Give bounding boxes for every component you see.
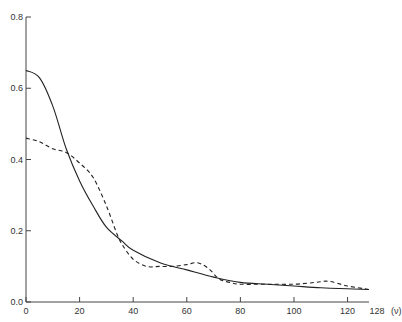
x-tick-label: 20 — [75, 306, 85, 316]
y-tick-label: 0.4 — [10, 155, 23, 165]
x-tick-label: 120 — [340, 306, 355, 316]
x-tick-label: 40 — [128, 306, 138, 316]
x-tick-label: 0 — [23, 306, 28, 316]
dashed-series-line — [26, 138, 369, 289]
line-chart: 0.00.20.40.60.8 020406080100120128(ν) — [0, 0, 402, 322]
x-tick-label: 100 — [286, 306, 301, 316]
x-tick-label: 128 — [369, 306, 384, 316]
y-axis: 0.00.20.40.60.8 — [10, 12, 31, 307]
y-tick-label: 0.8 — [10, 12, 23, 22]
x-tick-label: 60 — [182, 306, 192, 316]
solid-series-line — [26, 70, 369, 289]
y-tick-label: 0.0 — [10, 297, 23, 307]
plot-series — [26, 70, 369, 289]
x-tick-label: 80 — [235, 306, 245, 316]
y-tick-label: 0.2 — [10, 226, 23, 236]
x-axis-unit-label: (ν) — [391, 306, 402, 316]
y-tick-label: 0.6 — [10, 83, 23, 93]
x-axis: 020406080100120128(ν) — [23, 297, 401, 316]
